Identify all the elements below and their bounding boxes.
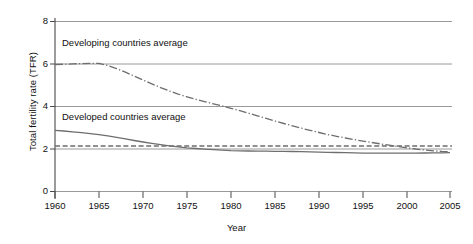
x-tick-1980: 1980 xyxy=(211,201,251,211)
y-axis xyxy=(50,18,55,199)
y-tick-0: 0 xyxy=(26,186,48,196)
annotation-developing-countries: Developing countries average xyxy=(60,37,190,48)
x-tick-1990: 1990 xyxy=(299,201,339,211)
x-axis-title: Year xyxy=(0,222,473,233)
x-tick-1965: 1965 xyxy=(79,201,119,211)
x-tick-1970: 1970 xyxy=(123,201,163,211)
x-tick-2000: 2000 xyxy=(387,201,427,211)
fertility-rate-line-chart: 8 6 4 2 0 1960 1965 1970 1975 1980 1985 … xyxy=(0,0,473,244)
x-tick-1985: 1985 xyxy=(255,201,295,211)
series-developing-countries-line xyxy=(55,63,450,152)
x-tick-1960: 1960 xyxy=(35,201,75,211)
y-axis-title: Total fertility rate (TFR) xyxy=(27,22,38,182)
x-tick-1995: 1995 xyxy=(343,201,383,211)
x-axis xyxy=(55,192,450,199)
series-developed-countries-line xyxy=(55,130,450,153)
x-tick-2005: 2005 xyxy=(430,201,470,211)
annotation-developed-countries: Developed countries average xyxy=(60,111,188,122)
x-tick-1975: 1975 xyxy=(167,201,207,211)
